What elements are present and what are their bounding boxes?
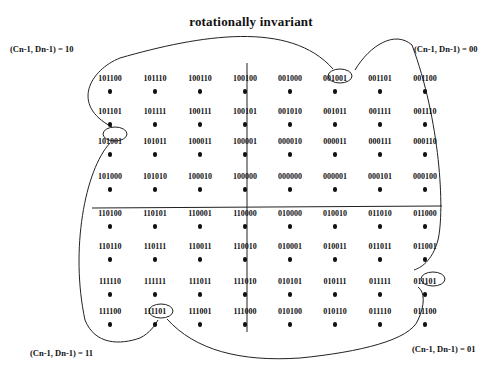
- point-000100: 000100: [405, 172, 445, 192]
- point-011110: 011110: [360, 307, 400, 327]
- point-101010: 101010: [135, 172, 175, 192]
- point-000111: 000111: [360, 137, 400, 157]
- point-010011: 010011: [315, 242, 355, 262]
- point-110101: 110101: [135, 209, 175, 229]
- point-101000: 101000: [90, 172, 130, 192]
- point-010110: 010110: [315, 307, 355, 327]
- point-001101: 001101: [360, 74, 400, 94]
- point-100000: 100000: [225, 172, 265, 192]
- point-000010: 000010: [270, 137, 310, 157]
- point-001110: 001110: [405, 107, 445, 127]
- point-111111: 111111: [135, 277, 175, 297]
- point-111011: 111011: [180, 277, 220, 297]
- point-111000: 111000: [225, 307, 265, 327]
- point-010001: 010001: [270, 242, 310, 262]
- point-010111: 010111: [315, 277, 355, 297]
- point-111110: 111110: [90, 277, 130, 297]
- point-110000: 110000: [225, 209, 265, 229]
- point-011001: 011001: [405, 242, 445, 262]
- point-110100: 110100: [90, 209, 130, 229]
- point-110111: 110111: [135, 242, 175, 262]
- point-011111: 011111: [360, 277, 400, 297]
- point-010010: 010010: [315, 209, 355, 229]
- point-011011: 011011: [360, 242, 400, 262]
- point-001010: 001010: [270, 107, 310, 127]
- point-010100: 010100: [270, 307, 310, 327]
- point-100110: 100110: [180, 74, 220, 94]
- point-111010: 111010: [225, 277, 265, 297]
- point-100001: 100001: [225, 137, 265, 157]
- point-010000: 010000: [270, 209, 310, 229]
- point-101111: 101111: [135, 107, 175, 127]
- point-110011: 110011: [180, 242, 220, 262]
- point-011100: 011100: [405, 307, 445, 327]
- point-110001: 110001: [180, 209, 220, 229]
- point-000001: 000001: [315, 172, 355, 192]
- point-110010: 110010: [225, 242, 265, 262]
- point-000011: 000011: [315, 137, 355, 157]
- point-100100: 100100: [225, 74, 265, 94]
- point-101011: 101011: [135, 137, 175, 157]
- point-010101: 010101: [270, 277, 310, 297]
- point-001001: 001001: [315, 74, 355, 94]
- point-101101: 101101: [90, 107, 130, 127]
- point-000110: 000110: [405, 137, 445, 157]
- point-101001: 101001: [90, 137, 130, 157]
- point-111101: 111101: [135, 307, 175, 327]
- point-001100: 001100: [405, 74, 445, 94]
- point-111100: 111100: [90, 307, 130, 327]
- point-100101: 100101: [225, 107, 265, 127]
- point-001111: 001111: [360, 107, 400, 127]
- point-110110: 110110: [90, 242, 130, 262]
- point-011010: 011010: [360, 209, 400, 229]
- constellation-grid: 101100 101110 100110 100100 001000 00100…: [90, 74, 428, 324]
- point-011101: 011101: [405, 277, 445, 297]
- point-100011: 100011: [180, 137, 220, 157]
- point-000101: 000101: [360, 172, 400, 192]
- point-000000: 000000: [270, 172, 310, 192]
- point-101100: 101100: [90, 74, 130, 94]
- point-100010: 100010: [180, 172, 220, 192]
- point-101110: 101110: [135, 74, 175, 94]
- point-001011: 001011: [315, 107, 355, 127]
- point-011000: 011000: [405, 209, 445, 229]
- point-001000: 001000: [270, 74, 310, 94]
- point-100111: 100111: [180, 107, 220, 127]
- point-111001: 111001: [180, 307, 220, 327]
